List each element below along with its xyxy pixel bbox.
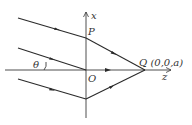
angle-theta-label: θ — [33, 59, 39, 70]
z-axis-label: z — [161, 71, 168, 82]
arrow-icon — [54, 27, 60, 30]
arrow-icon — [105, 68, 111, 72]
incident-ray-bottom — [18, 79, 86, 99]
point-p-label: P — [87, 26, 95, 37]
arrow-icon — [49, 57, 55, 60]
incident-ray-top — [18, 18, 86, 38]
angle-arc — [44, 62, 46, 70]
ray-diagram: x P O θ Q (0,0,a) z — [0, 0, 192, 125]
point-o-label: O — [88, 73, 96, 84]
x-axis-label: x — [91, 10, 97, 21]
arrow-icon — [109, 85, 114, 89]
point-q-label: Q (0,0,a) — [139, 57, 183, 68]
